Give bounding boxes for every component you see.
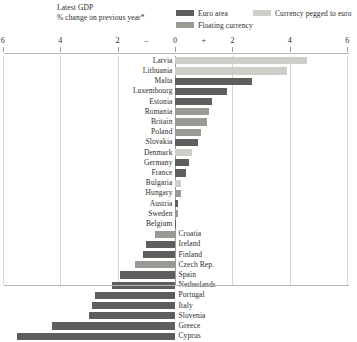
bar-row: Greece [0,321,357,331]
bar-finland [143,251,175,258]
bar-label-estonia: Estonia [149,97,172,107]
bar-label-latvia: Latvia [153,56,173,66]
bar-row: Lithuania [0,66,357,76]
bar-row: Slovakia [0,138,357,148]
bar-row: Bulgaria [0,178,357,188]
bar-label-cyprus: Cyprus [179,331,201,341]
bar-sweden [175,210,178,217]
bar-label-luxembourg: Luxembourg [133,86,173,96]
bar-row: Austria [0,199,357,209]
bar-label-poland: Poland [151,127,172,137]
bar-label-austria: Austria [150,199,173,209]
bar-row: Spain [0,270,357,280]
x-axis-tick-3 [175,47,176,52]
x-axis-tick-6 [347,47,348,52]
bar-row: Britain [0,117,357,127]
x-axis-sign-positive: + [201,36,206,46]
bar-malta [175,78,252,85]
bar-label-italy: Italy [179,301,193,311]
x-axis-label-0: 6 [1,36,5,46]
bar-label-britain: Britain [151,117,173,127]
bar-label-lithuania: Lithuania [143,66,173,76]
plot-area: LatviaLithuaniaMaltaLuxembourgEstoniaRom… [0,56,357,288]
bar-belgium [175,220,176,227]
legend-label-floating: Floating currency [198,21,253,30]
bar-label-czech-rep: Czech Rep. [179,260,215,270]
bar-row: Croatia [0,229,357,239]
bar-label-finland: Finland [179,250,203,260]
x-axis-sign-negative: – [144,36,148,46]
bar-denmark [175,149,192,156]
bar-row: Luxembourg [0,87,357,97]
legend-item-euro-area: Euro area [176,3,228,12]
bar-row: Belgium [0,219,357,229]
bar-row: Czech Rep. [0,260,357,270]
bar-row: Denmark [0,148,357,158]
bar-label-denmark: Denmark [144,148,173,158]
bar-britain [175,118,207,125]
bar-label-hungary: Hungary [146,188,173,198]
bar-romania [175,108,209,115]
bar-row: Portugal [0,291,357,301]
bar-label-slovenia: Slovenia [179,311,206,321]
bar-label-slovakia: Slovakia [145,137,172,147]
bar-italy [92,302,175,309]
bar-row: Slovenia [0,311,357,321]
axis-rule-top [4,53,349,54]
bar-row: France [0,168,357,178]
bar-row: Cyprus [0,331,357,341]
bar-row: Ireland [0,240,357,250]
bar-row: Sweden [0,209,357,219]
x-axis-tick-1 [60,47,61,52]
bar-austria [175,200,178,207]
legend-label-pegged: Currency pegged to euro [275,9,352,18]
x-axis-tick-4 [232,47,233,52]
bar-lithuania [175,67,287,74]
chart-subtitle: % change on previous year* [57,13,145,23]
bar-label-sweden: Sweden [148,209,172,219]
bar-cyprus [17,333,175,340]
bar-label-romania: Romania [145,107,173,117]
legend-swatch-floating [176,22,194,28]
bar-label-portugal: Portugal [179,290,205,300]
bar-label-germany: Germany [144,158,173,168]
bar-label-spain: Spain [179,270,197,280]
bar-row: Poland [0,127,357,137]
x-axis-tick-5 [290,47,291,52]
bar-row: Latvia [0,56,357,66]
bar-croatia [155,231,175,238]
bar-luxembourg [175,88,227,95]
bar-hungary [175,190,181,197]
bar-row: Estonia [0,97,357,107]
bar-ireland [146,241,175,248]
bar-label-malta: Malta [155,76,173,86]
bar-slovakia [175,139,198,146]
bar-label-ireland: Ireland [179,239,201,249]
bar-row: Romania [0,107,357,117]
x-axis-label-1: 4 [58,36,62,46]
bar-greece [52,322,175,329]
bar-row: Germany [0,158,357,168]
legend-item-pegged: Currency pegged to euro [253,3,352,12]
bar-germany [175,159,189,166]
bar-label-belgium: Belgium [146,219,173,229]
bar-bulgaria [175,180,181,187]
legend-swatch-pegged [253,10,271,16]
axis-rule-bottom [4,285,349,286]
x-axis-label-3: 0 [173,36,177,46]
bar-czech-rep [135,261,175,268]
x-axis-label-4: 2 [230,36,234,46]
bar-latvia [175,57,307,64]
legend-item-floating: Floating currency [176,15,253,24]
bar-poland [175,129,201,136]
x-axis-label-5: 4 [288,36,292,46]
bar-label-greece: Greece [179,321,201,331]
bar-france [175,169,186,176]
x-axis-tick-2 [118,47,119,52]
x-axis-label-2: 2 [116,36,120,46]
bar-row: Italy [0,301,357,311]
chart-title: Latest GDP [57,3,93,13]
bar-spain [120,271,175,278]
bar-label-bulgaria: Bulgaria [146,178,173,188]
